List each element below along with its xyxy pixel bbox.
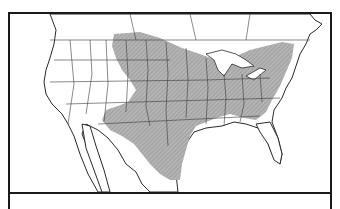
range-map-frame	[8, 12, 332, 194]
florida-peninsula	[256, 122, 282, 164]
range-map	[10, 14, 330, 192]
caption-area	[8, 193, 332, 209]
